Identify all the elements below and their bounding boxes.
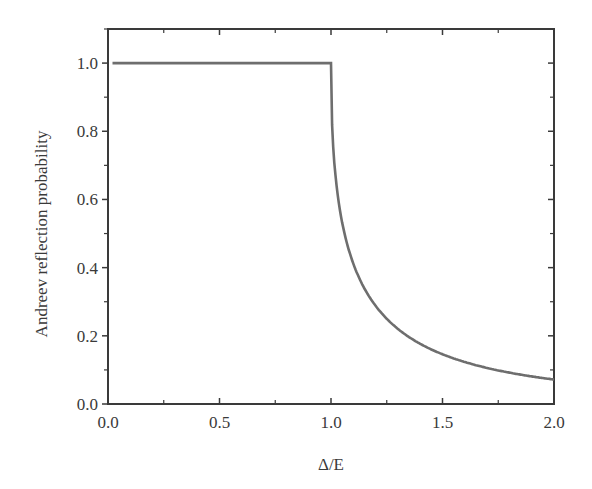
y-tick-label: 0.8 — [77, 122, 98, 141]
y-tick-label: 1.0 — [77, 54, 98, 73]
x-axis-label: Δ/E — [318, 455, 344, 474]
andreev-reflection-chart: 0.00.51.01.52.0 0.00.20.40.60.81.0 Δ/E A… — [0, 0, 592, 489]
y-tick-label: 0.4 — [77, 259, 99, 278]
x-tick-label: 0.0 — [97, 413, 118, 432]
data-series — [113, 63, 555, 379]
x-tick-label: 1.0 — [320, 413, 341, 432]
y-tick-label: 0.2 — [77, 327, 98, 346]
series-line — [113, 63, 555, 379]
x-tick-label: 1.5 — [432, 413, 453, 432]
x-tick-label: 2.0 — [543, 413, 564, 432]
y-tick-label: 0.0 — [77, 395, 98, 414]
y-tick-label: 0.6 — [77, 190, 98, 209]
y-axis-ticks: 0.00.20.40.60.81.0 — [77, 29, 554, 414]
x-tick-label: 0.5 — [209, 413, 230, 432]
y-axis-label: Andreev reflection probability — [32, 130, 51, 337]
